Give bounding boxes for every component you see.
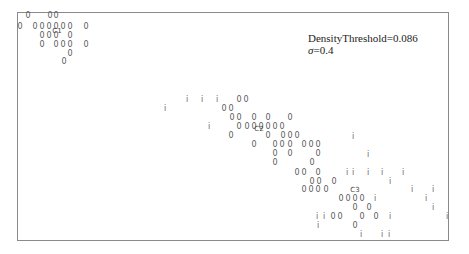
cluster-point: 0: [279, 123, 284, 131]
sigma-value: =0.4: [313, 44, 333, 56]
noise-point: i: [402, 169, 404, 177]
cluster-point: 0: [272, 123, 277, 131]
cluster-point: 0: [337, 213, 342, 221]
cluster-point: 0: [272, 150, 277, 158]
cluster-point: 0: [265, 132, 270, 140]
noise-point: i: [432, 204, 434, 212]
noise-point: i: [367, 169, 369, 177]
cluster-point: 0: [287, 141, 292, 149]
noise-point: i: [201, 96, 203, 104]
cluster-point: 0: [39, 32, 44, 40]
cluster-point: 0: [83, 23, 88, 31]
cluster-point: 0: [331, 178, 336, 186]
cluster-point: 0: [323, 186, 328, 194]
noise-point: i: [208, 123, 210, 131]
noise-point: i: [367, 151, 369, 159]
cluster-point: 0: [366, 204, 371, 212]
cluster-point: 0: [236, 96, 241, 104]
cluster-point: 0: [228, 132, 233, 140]
cluster-point: 0: [352, 195, 357, 203]
annotation: DensityThreshold=0.086 σ=0.4: [308, 32, 418, 56]
density-threshold-label: DensityThreshold=0.086: [308, 32, 418, 44]
noise-point: i: [432, 186, 434, 194]
sigma-label: σ=0.4: [308, 44, 418, 56]
noise-point: i: [360, 231, 362, 239]
noise-point: i: [446, 213, 448, 221]
cluster-point: 0: [83, 41, 88, 49]
cluster-point: 0: [301, 169, 306, 177]
noise-point: i: [216, 96, 218, 104]
noise-point: i: [323, 213, 325, 221]
cluster-point: 0: [47, 12, 52, 20]
cluster-point: 0: [221, 105, 226, 113]
cluster-point: 0: [272, 141, 277, 149]
centroid-label: C1: [52, 28, 61, 35]
cluster-point: 0: [67, 50, 72, 58]
noise-point: i: [381, 231, 383, 239]
cluster-point: 0: [294, 169, 299, 177]
cluster-point: 0: [39, 41, 44, 49]
noise-point: i: [352, 133, 354, 141]
cluster-point: 0: [251, 141, 256, 149]
cluster-point: 0: [315, 186, 320, 194]
cluster-point: 0: [67, 23, 72, 31]
noise-point: i: [317, 222, 319, 230]
noise-point: i: [186, 96, 188, 104]
cluster-point: 0: [60, 41, 65, 49]
noise-point: i: [389, 213, 391, 221]
cluster-point: 0: [243, 96, 248, 104]
cluster-point: 0: [67, 32, 72, 40]
noise-point: i: [346, 169, 348, 177]
cluster-point: 0: [280, 132, 285, 140]
cluster-point: 0: [229, 114, 234, 122]
cluster-point: 0: [352, 222, 357, 230]
cluster-point: 0: [46, 32, 51, 40]
noise-point: i: [389, 178, 391, 186]
cluster-point: 0: [46, 23, 51, 31]
cluster-point: 0: [301, 141, 306, 149]
centroid-label: C3: [350, 187, 359, 194]
cluster-point: 0: [301, 186, 306, 194]
cluster-point: 0: [294, 132, 299, 140]
noise-point: i: [411, 186, 413, 194]
cluster-point: 0: [315, 141, 320, 149]
cluster-point: 0: [315, 169, 320, 177]
noise-point: i: [374, 195, 376, 203]
cluster-point: 0: [244, 123, 249, 131]
centroid-label: C2: [254, 126, 263, 133]
cluster-point: 0: [330, 213, 335, 221]
cluster-point: 0: [53, 12, 58, 20]
cluster-point: 0: [287, 132, 292, 140]
noise-point: i: [164, 105, 166, 113]
noise-point: i: [352, 169, 354, 177]
cluster-point: 0: [61, 58, 66, 66]
noise-point: i: [381, 169, 383, 177]
cluster-point: 0: [32, 23, 37, 31]
cluster-point: 0: [236, 114, 241, 122]
cluster-point: 0: [25, 12, 30, 20]
cluster-point: 0: [265, 114, 270, 122]
cluster-point: 0: [338, 195, 343, 203]
cluster-point: 0: [345, 195, 350, 203]
cluster-point: 0: [287, 114, 292, 122]
cluster-point: 0: [17, 23, 22, 31]
cluster-point: 0: [67, 41, 72, 49]
cluster-point: 0: [309, 159, 314, 167]
noise-point: i: [316, 213, 318, 221]
cluster-point: 0: [228, 105, 233, 113]
cluster-point: 0: [373, 213, 378, 221]
cluster-point: 0: [308, 141, 313, 149]
cluster-point: 0: [352, 204, 357, 212]
cluster-point: 0: [308, 186, 313, 194]
cluster-point: 0: [287, 150, 292, 158]
cluster-point: 0: [265, 123, 270, 131]
cluster-point: 0: [236, 123, 241, 131]
cluster-point: 0: [279, 141, 284, 149]
cluster-point: 0: [53, 41, 58, 49]
cluster-point: 0: [359, 213, 364, 221]
noise-point: i: [388, 231, 390, 239]
cluster-point: 0: [272, 159, 277, 167]
noise-point: i: [425, 195, 427, 203]
cluster-point: 0: [251, 114, 256, 122]
cluster-point: 0: [39, 23, 44, 31]
